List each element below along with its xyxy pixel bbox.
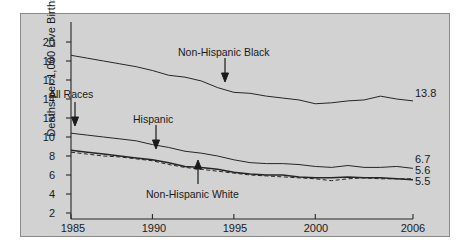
series-line-non-hispanic-black: [71, 55, 413, 103]
series-line-non-hispanic-white: [71, 150, 413, 179]
plot-area: [21, 14, 451, 238]
x-tick-marks: [71, 214, 413, 219]
series-line-all-races: [71, 133, 413, 168]
annotation-arrows: [72, 58, 229, 184]
arrow-head-all-races: [72, 117, 79, 126]
arrow-head-non-hispanic-black: [222, 73, 229, 82]
arrow-head-non-hispanic-white: [195, 160, 202, 169]
y-tick-marks: [66, 42, 71, 213]
series-lines: [71, 55, 413, 180]
infant-mortality-line-chart: Deaths per 1,000 Live Births 20 18 16 14…: [0, 0, 463, 250]
chart-panel: Deaths per 1,000 Live Births 20 18 16 14…: [20, 13, 450, 237]
